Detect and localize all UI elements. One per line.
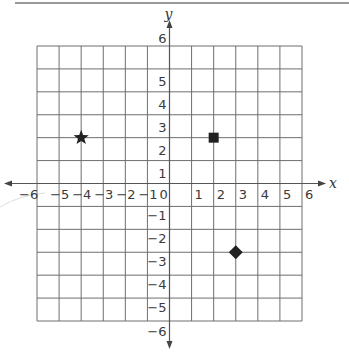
x-axis-label: x [329,175,337,191]
x-tick-label: −5 [50,187,69,202]
y-tick-label: 5 [158,74,166,89]
y-tick-label: −4 [147,277,166,292]
x-tick-label: −4 [72,187,91,202]
x-tick-label: 5 [283,187,291,202]
x-tick-label: 1 [195,187,203,202]
y-tick-label: −2 [147,231,166,246]
x-tick-label: 6 [305,187,313,202]
y-tick-label: 4 [158,97,166,112]
x-tick-label: 3 [239,187,247,202]
y-tick-label: 3 [158,120,166,135]
y-tick-label: −3 [147,254,166,269]
x-axis-left-arrow-icon [4,181,12,187]
y-axis-down-arrow-icon [167,341,173,349]
x-tick-label: −6 [19,187,38,202]
diamond-marker-icon [229,245,243,259]
coordinate-plane: xy −6−5−4−3−2−10123456654321−1−2−3−4−5−6 [0,0,349,352]
x-tick-label: −1 [138,187,157,202]
y-tick-label: −6 [147,324,166,339]
y-tick-label: −5 [147,300,166,315]
x-axis-right-arrow-icon [318,181,326,187]
x-tick-label: −2 [116,187,135,202]
tick-labels: −6−5−4−3−2−10123456654321−1−2−3−4−5−6 [19,31,313,339]
x-tick-label: −3 [94,187,113,202]
x-tick-label: 4 [261,187,269,202]
y-tick-label: −1 [147,208,166,223]
y-tick-label: 6 [158,31,166,46]
y-tick-label: 1 [158,166,166,181]
axes: xy [4,6,337,349]
y-tick-label: 2 [158,143,166,158]
y-axis-label: y [164,6,174,22]
x-tick-label: 0 [160,187,168,202]
square-marker-icon [209,133,219,143]
x-tick-label: 2 [217,187,225,202]
